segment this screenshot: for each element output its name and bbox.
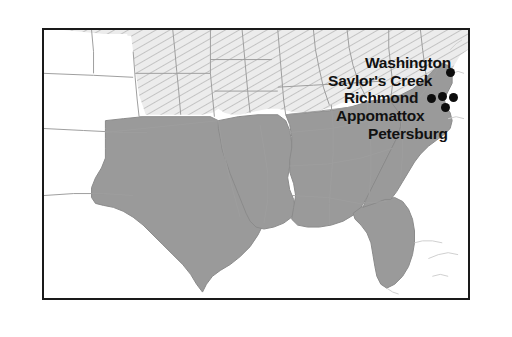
civil-war-map-figure: Washington Saylor's Creek Richmond Appom… bbox=[0, 0, 512, 337]
map-graphic bbox=[44, 30, 468, 298]
map-frame bbox=[42, 28, 470, 300]
